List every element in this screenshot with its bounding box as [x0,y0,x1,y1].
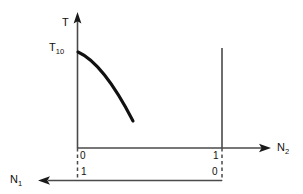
composition-axis-n1-label-subscript: 1 [18,179,22,188]
composition-axis-n2-group [78,144,272,153]
composition-axis-n2-label-subscript: 2 [285,147,289,156]
tick-n1-left: 1 [81,167,87,177]
composition-axis-n1-label-base: N [10,173,18,185]
composition-axis-n1-group [38,176,222,185]
diagram-canvas [0,0,303,194]
temperature-axis-group [74,12,82,148]
tick-n1-right: 0 [212,167,218,177]
t10-label: T10 [49,42,64,56]
tick-n2-left: 0 [80,151,86,161]
composition-axis-n2-label: N2 [277,142,289,156]
composition-axis-n2-label-base: N [277,141,285,153]
tick-n2-right: 1 [213,151,219,161]
liquidus-curve [78,52,133,121]
phase-diagram-figure: T T10 N2 N1 0 1 1 0 [0,0,303,194]
t10-label-subscript: 10 [56,47,65,56]
t10-label-base: T [49,41,56,53]
composition-axis-n1-label: N1 [10,174,22,188]
temperature-axis-label: T [62,17,69,28]
